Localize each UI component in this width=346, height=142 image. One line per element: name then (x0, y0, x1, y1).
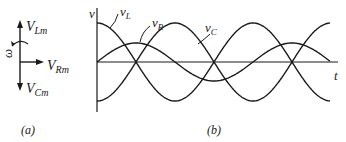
curve-label-vc: vC (205, 20, 218, 37)
arrow-right-icon (36, 59, 44, 65)
caption-b: (b) (207, 123, 221, 137)
curve-label-vl: vL (120, 4, 131, 21)
figure: VLm VRm VCm ω (a) v t vL vR vC (b) (0, 0, 346, 142)
omega-label: ω (0, 49, 15, 58)
arrow-down-icon (17, 83, 23, 91)
curve-label-vr: vR (152, 15, 164, 32)
arrow-up-icon (17, 20, 23, 28)
caption-a: (a) (21, 123, 35, 137)
x-axis-label: t (334, 68, 338, 83)
phasor-label-vlm: VLm (26, 19, 47, 36)
phasor-label-vrm: VRm (47, 58, 69, 75)
waveform-plot (97, 8, 338, 112)
phasor-label-vcm: VCm (26, 81, 48, 98)
y-axis-label: v (89, 6, 95, 21)
